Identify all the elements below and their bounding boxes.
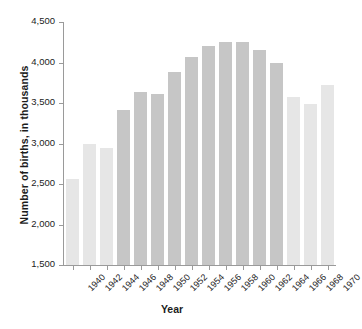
x-tick bbox=[260, 266, 261, 270]
y-tick-label: 3,500 bbox=[31, 96, 55, 107]
bar bbox=[270, 63, 284, 266]
bar bbox=[236, 42, 250, 265]
y-axis-title: Number of births, in thousands bbox=[18, 45, 30, 245]
x-tick bbox=[192, 266, 193, 270]
x-tick bbox=[294, 266, 295, 270]
x-tick bbox=[124, 266, 125, 270]
bar bbox=[168, 72, 182, 265]
x-tick bbox=[141, 266, 142, 270]
x-tick bbox=[328, 266, 329, 270]
y-tick-label: 2,000 bbox=[31, 218, 55, 229]
y-tick: 2,000 bbox=[59, 225, 64, 226]
y-tick-label: 3,000 bbox=[31, 137, 55, 148]
x-tick-label: 1962 bbox=[272, 272, 293, 293]
x-tick-label: 1954 bbox=[204, 272, 225, 293]
y-tick-label: 1,500 bbox=[31, 258, 55, 269]
x-tick-label: 1966 bbox=[306, 272, 327, 293]
x-tick bbox=[158, 266, 159, 270]
bar bbox=[202, 46, 216, 265]
bar bbox=[66, 179, 80, 265]
bar bbox=[219, 42, 233, 265]
bar bbox=[134, 92, 148, 265]
x-tick bbox=[243, 266, 244, 270]
x-tick bbox=[73, 266, 74, 270]
bar bbox=[253, 50, 267, 265]
y-tick-label: 4,000 bbox=[31, 56, 55, 67]
x-tick bbox=[226, 266, 227, 270]
bar bbox=[304, 104, 318, 265]
bar bbox=[117, 110, 131, 265]
x-tick-label: 1952 bbox=[187, 272, 208, 293]
y-tick: 4,500 bbox=[59, 22, 64, 23]
x-tick bbox=[209, 266, 210, 270]
x-tick-label: 1944 bbox=[119, 272, 140, 293]
bar bbox=[287, 97, 301, 265]
bar bbox=[151, 94, 165, 265]
bar bbox=[321, 85, 335, 265]
x-tick-label: 1946 bbox=[136, 272, 157, 293]
bar bbox=[83, 144, 97, 265]
x-tick-label: 1970 bbox=[340, 272, 361, 293]
x-tick bbox=[277, 266, 278, 270]
x-tick-label: 1942 bbox=[102, 272, 123, 293]
y-tick: 2,500 bbox=[59, 184, 64, 185]
x-axis-title: Year bbox=[0, 303, 344, 315]
x-tick-label: 1948 bbox=[153, 272, 174, 293]
y-tick-label: 2,500 bbox=[31, 177, 55, 188]
y-tick: 3,500 bbox=[59, 103, 64, 104]
x-tick-label: 1940 bbox=[85, 272, 106, 293]
x-axis-line bbox=[63, 265, 336, 266]
x-tick bbox=[175, 266, 176, 270]
x-tick bbox=[107, 266, 108, 270]
y-tick: 3,000 bbox=[59, 144, 64, 145]
x-tick bbox=[90, 266, 91, 270]
bar bbox=[100, 148, 114, 265]
y-tick-label: 4,500 bbox=[31, 15, 55, 26]
x-tick-label: 1950 bbox=[170, 272, 191, 293]
plot-area: 1,5002,0002,5003,0003,5004,0004,500 bbox=[64, 22, 336, 265]
x-tick-label: 1960 bbox=[255, 272, 276, 293]
bar bbox=[185, 57, 199, 265]
x-tick-label: 1958 bbox=[238, 272, 259, 293]
y-tick: 4,000 bbox=[59, 63, 64, 64]
x-tick-label: 1964 bbox=[289, 272, 310, 293]
x-tick-label: 1956 bbox=[221, 272, 242, 293]
x-tick bbox=[311, 266, 312, 270]
y-tick: 1,500 bbox=[59, 265, 64, 266]
x-tick-label: 1968 bbox=[323, 272, 344, 293]
